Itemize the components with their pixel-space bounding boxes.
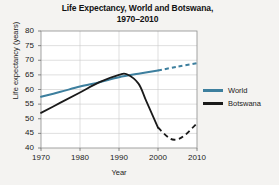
chart-legend: World Botswana: [203, 84, 261, 110]
x-tick-label: 1980: [60, 153, 100, 162]
y-tick-label: 60: [10, 85, 34, 94]
x-tick-label: 1990: [99, 153, 139, 162]
legend-label-world: World: [228, 86, 247, 95]
x-tick-label: 1970: [21, 153, 61, 162]
x-tick-label: 2000: [138, 153, 178, 162]
y-tick-label: 65: [10, 70, 34, 79]
y-tick-label: 45: [10, 128, 34, 137]
x-tick-label: 2010: [177, 153, 217, 162]
life-expectancy-chart: Life Expectancy, World and Botswana, 197…: [0, 0, 279, 185]
y-tick-label: 70: [10, 55, 34, 64]
y-tick-label: 50: [10, 114, 34, 123]
y-tick-label: 55: [10, 99, 34, 108]
legend-swatch-world: [203, 89, 223, 92]
legend-swatch-botswana: [203, 102, 223, 105]
legend-item-world: World: [203, 84, 261, 97]
legend-label-botswana: Botswana: [228, 99, 261, 108]
y-tick-label: 80: [10, 26, 34, 35]
y-tick-label: 75: [10, 41, 34, 50]
legend-item-botswana: Botswana: [203, 97, 261, 110]
y-tick-label: 40: [10, 143, 34, 152]
